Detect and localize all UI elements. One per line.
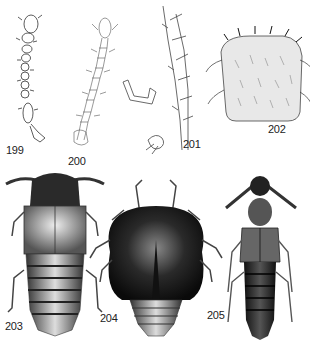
figure-plate: 199 200 201 202 203 204 205 — [0, 0, 310, 350]
figure-label-203: 203 — [5, 320, 22, 332]
figure-200-antenna — [74, 18, 118, 145]
figure-label-201: 201 — [183, 138, 200, 150]
figure-label-205: 205 — [207, 309, 224, 321]
figure-label-199: 199 — [6, 144, 23, 156]
figure-203-beetle — [6, 173, 104, 336]
figure-205-beetle — [226, 176, 296, 340]
figure-202-plate — [206, 26, 310, 121]
figure-label-200: 200 — [68, 155, 85, 167]
figure-199-antenna — [16, 15, 45, 142]
figure-label-204: 204 — [100, 312, 117, 324]
figure-label-202: 202 — [268, 123, 285, 135]
plate-drawings — [0, 0, 310, 350]
figure-201-leg — [123, 6, 193, 154]
